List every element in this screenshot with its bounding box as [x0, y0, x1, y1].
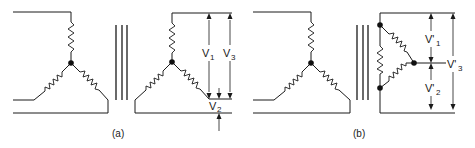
caption-a: (a) — [112, 128, 124, 139]
panel-b-voltage-v3-prime: V' 3 — [446, 13, 468, 110]
label-v1: V — [202, 47, 210, 59]
svg-text:3: 3 — [458, 64, 463, 73]
panel-a-voltage-v1: V 1 — [201, 13, 217, 99]
svg-text:2: 2 — [217, 105, 222, 114]
panel-b: V' 1 V' 2 V' 3 (b) — [253, 12, 468, 139]
panel-a-transformer-core — [116, 25, 127, 100]
secondary-star-point — [169, 59, 175, 65]
transformer-connection-diagram: V 1 V 3 V 2 (a) — [0, 0, 475, 148]
panel-a-voltage-v2: V 2 — [209, 88, 222, 131]
label-v2: V — [209, 100, 217, 112]
svg-text:1: 1 — [436, 39, 441, 48]
panel-b-primary-star-winding — [253, 12, 350, 113]
primary-star-point — [68, 60, 74, 66]
svg-text:2: 2 — [436, 88, 441, 97]
label-v1-prime: V' — [425, 33, 434, 45]
caption-b: (b) — [353, 128, 365, 139]
svg-text:3: 3 — [231, 53, 236, 62]
panel-a: V 1 V 3 V 2 (a) — [13, 12, 238, 139]
delta-node-bottom — [377, 85, 383, 91]
panel-b-secondary-delta-winding — [377, 13, 455, 113]
panel-b-voltage-v1-prime: V' 1 — [424, 13, 442, 63]
label-v3: V — [223, 47, 231, 59]
svg-text:1: 1 — [210, 53, 215, 62]
panel-a-primary-star-winding — [13, 12, 108, 113]
panel-a-voltage-v3: V 3 — [222, 13, 238, 99]
panel-b-voltage-v2-prime: V' 2 — [424, 63, 442, 110]
label-v3-prime: V' — [447, 58, 456, 70]
primary-star-point — [308, 60, 314, 66]
panel-b-transformer-core — [357, 25, 368, 100]
delta-node-right — [411, 60, 417, 66]
delta-node-top — [377, 22, 383, 28]
label-v2-prime: V' — [425, 82, 434, 94]
panel-a-secondary-star-winding — [135, 13, 232, 113]
